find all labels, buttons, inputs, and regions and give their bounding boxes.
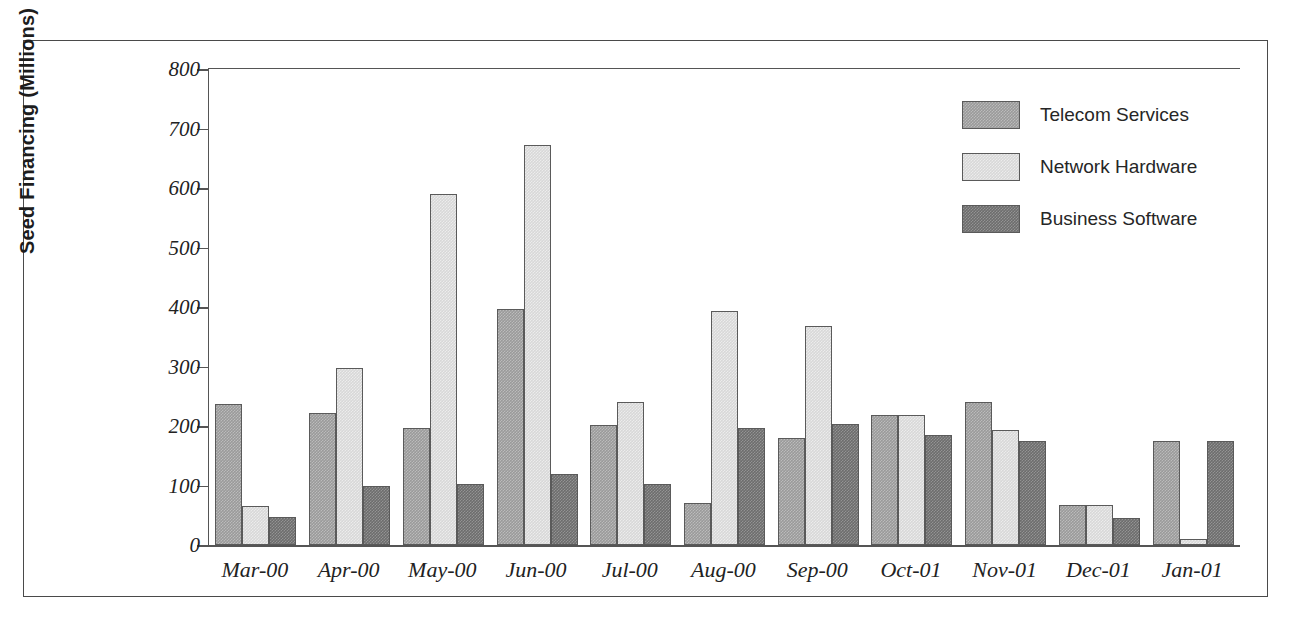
chart-page: Seed Financing (Millions) 01002003004005… <box>0 0 1291 622</box>
bar[interactable] <box>430 194 457 545</box>
legend-swatch <box>962 205 1020 233</box>
bar[interactable] <box>309 413 336 545</box>
bar[interactable] <box>711 311 738 545</box>
bar[interactable] <box>898 415 925 545</box>
bar[interactable] <box>403 428 430 545</box>
bar[interactable] <box>242 506 269 545</box>
bar[interactable] <box>1113 518 1140 545</box>
legend: Telecom ServicesNetwork HardwareBusiness… <box>962 101 1197 257</box>
bar-group <box>403 69 484 545</box>
bar-group <box>778 69 859 545</box>
bar[interactable] <box>269 517 296 545</box>
bar[interactable] <box>524 145 551 545</box>
bar[interactable] <box>1086 505 1113 545</box>
bar[interactable] <box>590 425 617 545</box>
y-axis-tick-label: 400 <box>120 295 200 320</box>
x-axis-tick-label: Jan-01 <box>1117 557 1267 583</box>
y-axis-tick-label: 500 <box>120 235 200 260</box>
bar-group <box>497 69 578 545</box>
y-axis-tick-label: 100 <box>120 473 200 498</box>
bar-group <box>215 69 296 545</box>
bar[interactable] <box>644 484 671 545</box>
y-axis-title: Seed Financing (Millions) <box>16 0 39 291</box>
legend-label: Network Hardware <box>1040 156 1197 178</box>
bar[interactable] <box>336 368 363 545</box>
bar-chart: Seed Financing (Millions) 01002003004005… <box>24 41 1267 596</box>
bar[interactable] <box>738 428 765 545</box>
y-axis-tick-label: 200 <box>120 414 200 439</box>
bar[interactable] <box>551 474 578 545</box>
bar[interactable] <box>778 438 805 545</box>
bar[interactable] <box>1059 505 1086 545</box>
y-axis-tick-label: 600 <box>120 176 200 201</box>
bar[interactable] <box>832 424 859 545</box>
legend-swatch <box>962 101 1020 129</box>
bar[interactable] <box>992 430 1019 545</box>
bar[interactable] <box>925 435 952 545</box>
x-axis-line <box>207 545 1240 547</box>
bar[interactable] <box>1153 441 1180 545</box>
bar[interactable] <box>497 309 524 545</box>
legend-item[interactable]: Business Software <box>962 205 1197 233</box>
bar[interactable] <box>215 404 242 545</box>
bar[interactable] <box>1207 441 1234 545</box>
bar[interactable] <box>805 326 832 545</box>
bar[interactable] <box>871 415 898 545</box>
bar[interactable] <box>617 402 644 545</box>
bar-group <box>309 69 390 545</box>
bar[interactable] <box>1019 441 1046 545</box>
bar[interactable] <box>965 402 992 545</box>
bar[interactable] <box>684 503 711 545</box>
y-axis-tick-label: 700 <box>120 116 200 141</box>
bar-group <box>871 69 952 545</box>
bar[interactable] <box>457 484 484 545</box>
bar-group <box>684 69 765 545</box>
legend-swatch <box>962 153 1020 181</box>
y-axis-tick-label: 0 <box>120 533 200 558</box>
y-axis-tick-label: 800 <box>120 57 200 82</box>
chart-frame: Seed Financing (Millions) 01002003004005… <box>23 40 1268 597</box>
y-axis-tick-label: 300 <box>120 354 200 379</box>
bar[interactable] <box>1180 539 1207 545</box>
legend-label: Business Software <box>1040 208 1197 230</box>
legend-item[interactable]: Telecom Services <box>962 101 1197 129</box>
bar[interactable] <box>363 486 390 545</box>
legend-item[interactable]: Network Hardware <box>962 153 1197 181</box>
legend-label: Telecom Services <box>1040 104 1189 126</box>
bar-group <box>590 69 671 545</box>
